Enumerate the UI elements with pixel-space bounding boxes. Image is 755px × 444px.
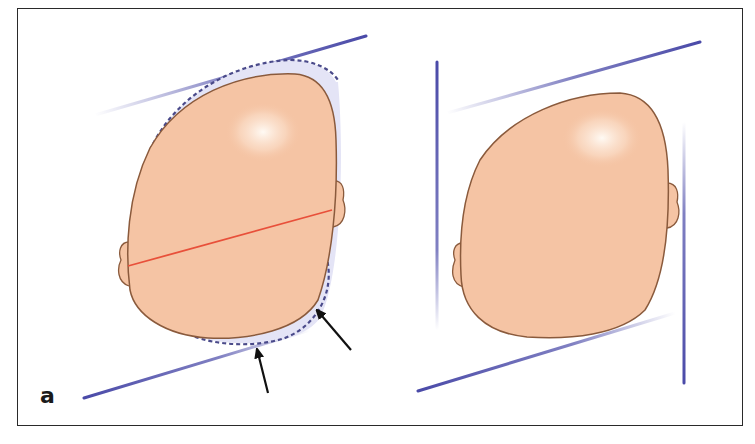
- arrow-icon: [322, 316, 351, 350]
- head-highlight: [225, 102, 301, 162]
- head-highlight: [562, 108, 642, 168]
- head-skull: [128, 74, 337, 338]
- figure-illustration: [0, 0, 755, 444]
- arrow-icon: [259, 357, 268, 393]
- right-panel: [418, 42, 700, 391]
- left-panel: [84, 36, 366, 398]
- panel-label: a: [40, 383, 55, 408]
